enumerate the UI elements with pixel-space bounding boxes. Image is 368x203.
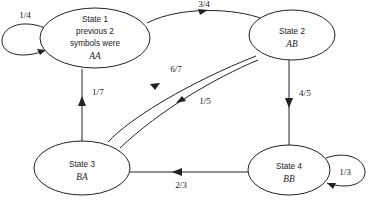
state-diagram-canvas: 1/4 3/4 1/7 6/7 1/5 xyxy=(0,0,368,203)
edge-state2-to-state4: 4/5 xyxy=(285,60,311,146)
node-state2[interactable]: State 2 AB xyxy=(249,10,335,60)
edge-label-state3-state1: 1/7 xyxy=(92,87,104,97)
edge-state4-state3-arrowhead xyxy=(172,168,182,176)
edge-state3-state1-arrowhead xyxy=(78,96,86,106)
node-state1-symbol: AA xyxy=(88,51,101,61)
node-state2-line-1: State 2 xyxy=(279,27,305,36)
node-state1-line-1: State 1 xyxy=(82,15,108,24)
edge-label-state2-state4: 4/5 xyxy=(299,88,311,98)
edge-state1-self-loop: 1/4 xyxy=(2,10,46,55)
edge-label-state4-state3: 2/3 xyxy=(175,180,187,190)
edge-label-state4-self: 1/3 xyxy=(339,167,351,177)
node-state1-line-3: symbols were xyxy=(70,39,120,48)
state-diagram: 1/4 3/4 1/7 6/7 1/5 xyxy=(0,0,368,203)
edge-state4-self-loop: 1/3 xyxy=(326,155,365,189)
node-state3[interactable]: State 3 BA xyxy=(34,141,130,195)
edge-label-state2-state3: 1/5 xyxy=(199,96,211,106)
edge-label-state1-self: 1/4 xyxy=(19,10,31,20)
node-state4-symbol: BB xyxy=(283,174,295,184)
node-state1-line-2: previous 2 xyxy=(76,27,114,36)
edge-state1-to-state2: 3/4 xyxy=(147,0,263,23)
edge-state2-state3-arrowhead xyxy=(176,96,186,103)
self-loop-state4-arrowhead xyxy=(327,183,336,189)
node-state2-symbol: AB xyxy=(285,39,298,49)
edge-state4-to-state3: 2/3 xyxy=(130,168,248,190)
edge-label-state3-state2: 6/7 xyxy=(170,64,182,74)
edge-state2-state4-arrowhead xyxy=(285,98,293,108)
edge-state3-state2-arrowhead xyxy=(150,83,160,90)
edge-state2-state3-path xyxy=(120,60,258,148)
node-state3-line-1: State 3 xyxy=(69,160,95,169)
edge-label-state1-state2: 3/4 xyxy=(198,0,210,9)
edge-state1-state2-path xyxy=(147,10,263,23)
node-state4-line-1: State 4 xyxy=(276,162,302,171)
node-state1[interactable]: State 1 previous 2 symbols were AA xyxy=(40,8,150,68)
node-state4[interactable]: State 4 BB xyxy=(248,145,330,195)
edge-state1-state2-arrowhead xyxy=(198,9,208,15)
edge-state2-to-state3: 1/5 xyxy=(120,60,258,148)
node-state3-symbol: BA xyxy=(76,172,88,182)
edge-state3-to-state1: 1/7 xyxy=(78,69,104,141)
